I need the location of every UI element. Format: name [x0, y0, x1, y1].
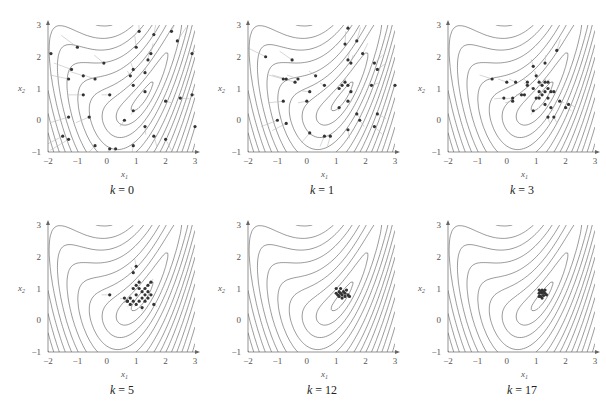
x-tick-label: 3	[593, 356, 598, 366]
particle-point	[146, 58, 149, 61]
particle-point	[335, 292, 338, 295]
y-tick-label: 0	[237, 315, 242, 325]
x-tick-label: 2	[363, 156, 368, 166]
particle-point	[343, 42, 346, 45]
x-tick-label: 3	[193, 356, 198, 366]
particle-point	[348, 295, 351, 298]
particle-point	[552, 90, 555, 93]
particle-point	[135, 284, 138, 287]
x-tick-label: 0	[505, 156, 510, 166]
particle-point	[370, 84, 373, 87]
particle-point	[49, 52, 52, 55]
particle-point	[355, 39, 358, 42]
x-tick-label: −2	[243, 156, 253, 166]
particle-point	[511, 96, 514, 99]
particle-point	[146, 296, 149, 299]
particle-point	[555, 49, 558, 52]
y-tick-label: 1	[237, 284, 242, 294]
y-tick-label: 3	[437, 20, 442, 30]
particle-point	[558, 100, 561, 103]
particle-point	[376, 112, 379, 115]
y-tick-label: 3	[437, 220, 442, 230]
particle-point	[143, 287, 146, 290]
particle-point	[505, 81, 508, 84]
particle-point	[393, 84, 396, 87]
particle-point	[532, 109, 535, 112]
caption-value: = 3	[515, 183, 534, 197]
x-tick-label: −2	[43, 156, 53, 166]
y-tick-label: −1	[431, 147, 441, 157]
particle-point	[108, 147, 111, 150]
particle-point	[132, 271, 135, 274]
particle-point	[339, 287, 342, 290]
subplot-caption: k = 12	[222, 383, 422, 398]
particle-point	[564, 106, 567, 109]
particle-point	[343, 295, 346, 298]
y-tick-label: 0	[437, 115, 442, 125]
particle-point	[323, 135, 326, 138]
particle-point	[143, 90, 146, 93]
y-tick-label: 2	[237, 252, 242, 262]
particle-point	[546, 87, 549, 90]
particle-point	[502, 96, 505, 99]
x-axis-label: x1	[320, 369, 328, 380]
particle-point	[511, 100, 514, 103]
contour-plot: −2−10123−10123x1x2	[400, 0, 600, 200]
x-tick-label: 0	[105, 356, 110, 366]
particle-point	[108, 293, 111, 296]
y-tick-label: 3	[237, 220, 242, 230]
y-tick-label: 2	[37, 252, 42, 262]
particle-point	[135, 303, 138, 306]
particle-point	[338, 106, 341, 109]
x-axis-label: x1	[320, 169, 328, 180]
y-tick-label: −1	[431, 347, 441, 357]
particle-point	[296, 77, 299, 80]
subplot-caption: k = 3	[422, 183, 606, 198]
x-tick-label: 2	[163, 156, 168, 166]
particle-point	[491, 77, 494, 80]
y-tick-label: −1	[31, 147, 41, 157]
y-tick-label: 0	[37, 115, 42, 125]
x-tick-label: 2	[363, 356, 368, 366]
particle-point	[305, 100, 308, 103]
particle-point	[149, 293, 152, 296]
particle-point	[543, 81, 546, 84]
particle-point	[132, 287, 135, 290]
particle-point	[532, 65, 535, 68]
particle-point	[152, 303, 155, 306]
x-tick-label: 1	[334, 356, 339, 366]
particle-point	[179, 96, 182, 99]
particle-point	[343, 81, 346, 84]
particle-point	[282, 77, 285, 80]
particle-point	[338, 295, 341, 298]
particle-point	[549, 90, 552, 93]
y-axis-label: x2	[217, 83, 225, 94]
y-tick-label: 2	[237, 52, 242, 62]
particle-point	[143, 293, 146, 296]
particle-point	[138, 287, 141, 290]
particle-point	[540, 296, 543, 299]
y-tick-label: 3	[237, 20, 242, 30]
particle-point	[285, 122, 288, 125]
x-tick-label: 2	[563, 156, 568, 166]
particle-point	[346, 100, 349, 103]
x-axis-label: x1	[120, 169, 128, 180]
x-tick-label: 0	[305, 356, 310, 366]
particle-point	[538, 81, 541, 84]
particle-point	[82, 93, 85, 96]
particle-point	[346, 128, 349, 131]
x-tick-label: −2	[243, 356, 253, 366]
particle-point	[164, 138, 167, 141]
particle-point	[308, 90, 311, 93]
particle-point	[67, 138, 70, 141]
particle-point	[143, 300, 146, 303]
y-tick-label: 3	[37, 220, 42, 230]
subplot-k-0: −2−10123−10123x1x2	[0, 0, 200, 200]
particle-point	[132, 300, 135, 303]
x-tick-label: −1	[273, 356, 283, 366]
subplot-k-3: −2−10123−10123x1x2	[400, 0, 600, 200]
particle-point	[546, 115, 549, 118]
particle-point	[373, 62, 376, 65]
particle-point	[67, 115, 70, 118]
particle-point	[129, 74, 132, 77]
